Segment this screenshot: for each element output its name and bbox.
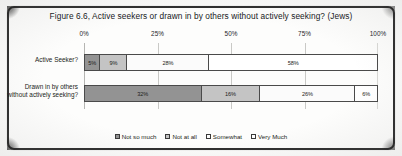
- x-tick-label: 0%: [79, 30, 88, 37]
- bar-segment-label: 5%: [88, 60, 96, 66]
- stacked-bar-row: 5%9%28%58%: [84, 54, 378, 71]
- legend-swatch-icon: [165, 134, 170, 139]
- category-label-drawn-in-by-others: Drawn in by others without actively seek…: [0, 83, 78, 99]
- bar-segment: 32%: [85, 86, 202, 101]
- category-label-active-seeker: Active Seeker?: [0, 56, 78, 64]
- bar-segment: 26%: [260, 86, 355, 101]
- legend-label: Not at all: [172, 133, 196, 140]
- bar-segment-label: 6%: [362, 91, 370, 97]
- legend-item: Not so much: [115, 133, 157, 140]
- chart-legend: Not so muchNot at allSomewhatVery Much: [0, 133, 402, 140]
- bar-segment: 9%: [100, 55, 127, 70]
- bar-segment: 5%: [85, 55, 100, 70]
- legend-swatch-icon: [206, 134, 211, 139]
- x-tick-label: 50%: [225, 30, 238, 37]
- bar-segment-label: 28%: [162, 60, 173, 66]
- bar-segment-label: 26%: [302, 91, 313, 97]
- category-label-line1: Active Seeker?: [0, 56, 78, 64]
- legend-swatch-icon: [251, 134, 256, 139]
- legend-swatch-icon: [115, 134, 120, 139]
- legend-label: Not so much: [122, 133, 157, 140]
- bar-segment-label: 9%: [110, 60, 118, 66]
- x-tick-label: 75%: [298, 30, 311, 37]
- figure-page: Figure 6.6, Active seekers or drawn in b…: [0, 0, 402, 156]
- x-tick-label: 25%: [151, 30, 164, 37]
- chart-title: Figure 6.6, Active seekers or drawn in b…: [0, 11, 402, 21]
- bar-segment: 16%: [202, 86, 261, 101]
- plot-area: 5%9%28%58%32%16%26%6%: [84, 43, 378, 109]
- legend-item: Somewhat: [206, 133, 242, 140]
- stacked-bar-row: 32%16%26%6%: [84, 85, 378, 102]
- bar-segment: 6%: [355, 86, 377, 101]
- bar-segment-label: 16%: [225, 91, 236, 97]
- legend-label: Very Much: [258, 133, 287, 140]
- category-label-line1: Drawn in by others: [0, 83, 78, 91]
- x-tick-label: 100%: [370, 30, 386, 37]
- bar-segment-label: 58%: [288, 60, 299, 66]
- legend-label: Somewhat: [213, 133, 242, 140]
- x-axis-tick-labels: 0%25%50%75%100%: [84, 30, 378, 40]
- category-label-line2: without actively seeking?: [0, 91, 78, 99]
- bar-segment: 58%: [209, 55, 377, 70]
- bar-segment: 28%: [127, 55, 209, 70]
- legend-item: Very Much: [251, 133, 287, 140]
- legend-item: Not at all: [165, 133, 196, 140]
- bar-segment-label: 32%: [137, 91, 148, 97]
